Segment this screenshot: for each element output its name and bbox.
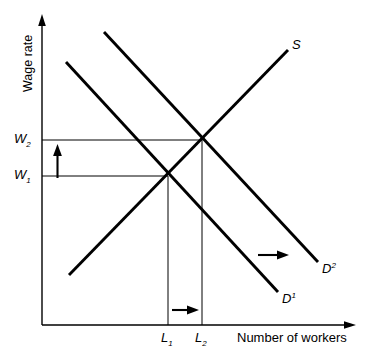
curve-label-demand2-sup: 2 — [331, 261, 335, 270]
demand-curve-D2 — [104, 32, 318, 262]
tick-label-l2: L2 — [195, 331, 207, 348]
y-axis-arrowhead — [38, 14, 46, 26]
tick-label-w2: W2 — [14, 132, 31, 149]
demand-shift-arrow — [258, 251, 289, 260]
tick-label-w1-base: W — [14, 167, 26, 182]
y-axis-label: Wage rate — [22, 35, 35, 92]
curve-label-demand1-sup: 1 — [291, 291, 295, 300]
wage-increase-arrow — [53, 144, 62, 178]
tick-label-l1-sub: 1 — [168, 339, 172, 348]
curve-label-demand2: D2 — [322, 262, 336, 275]
employment-increase-arrow — [172, 306, 199, 315]
curve-label-supply: S — [292, 38, 301, 51]
curve-label-demand1-base: D — [282, 291, 291, 306]
tick-label-l2-sub: 2 — [202, 339, 206, 348]
curve-label-demand2-base: D — [322, 261, 331, 276]
x-axis — [42, 321, 356, 329]
equilibrium-guides — [42, 140, 202, 325]
tick-label-w2-sub: 2 — [26, 140, 30, 149]
x-axis-arrowhead — [344, 321, 356, 329]
tick-label-w1: W1 — [14, 168, 31, 185]
tick-label-w1-sub: 1 — [26, 176, 30, 185]
supply-curve-S — [69, 50, 288, 275]
tick-label-w2-base: W — [14, 131, 26, 146]
curve-label-supply-base: S — [292, 37, 301, 52]
demand-curve-D1 — [66, 62, 278, 292]
supply-demand-diagram: Wage rate Number of workers W2 W1 L1 L2 … — [0, 0, 367, 358]
diagram-canvas — [0, 0, 367, 358]
x-axis-label: Number of workers — [237, 331, 347, 344]
y-axis — [38, 14, 46, 325]
curve-label-demand1: D1 — [282, 292, 296, 305]
tick-label-l1: L1 — [161, 331, 173, 348]
